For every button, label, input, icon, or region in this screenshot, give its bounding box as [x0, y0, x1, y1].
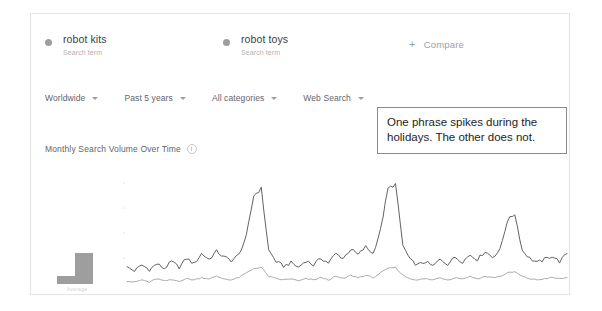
- chart-title: Monthly Search Volume Over Time: [45, 144, 181, 154]
- filter-time-range-label: Past 5 years: [124, 93, 172, 103]
- series-dot-icon: [45, 39, 52, 46]
- y-axis-ticks: [123, 182, 125, 259]
- chevron-down-icon: [92, 97, 98, 100]
- chevron-down-icon: [358, 97, 364, 100]
- filter-bar: Worldwide Past 5 years All categories We…: [45, 93, 390, 103]
- search-term-sublabel: Search term: [241, 47, 288, 58]
- filter-category-label: All categories: [212, 93, 264, 103]
- average-label: Average: [49, 286, 105, 292]
- search-term-name: robot kits: [63, 33, 107, 46]
- chevron-down-icon: [180, 97, 186, 100]
- line-series-robot-toys: [127, 267, 567, 282]
- search-terms-row: robot kits Search term robot toys Search…: [31, 33, 569, 73]
- search-term-robot-toys[interactable]: robot toys Search term: [223, 33, 288, 58]
- search-term-sublabel: Search term: [63, 47, 107, 58]
- filter-time-range[interactable]: Past 5 years: [124, 93, 185, 103]
- compare-label: Compare: [424, 39, 464, 50]
- filter-search-type[interactable]: Web Search: [303, 93, 364, 103]
- annotation-callout: One phrase spikes during the holidays. T…: [377, 107, 567, 154]
- plus-icon: +: [409, 39, 416, 50]
- add-compare-button[interactable]: + Compare: [409, 39, 464, 50]
- filter-category[interactable]: All categories: [212, 93, 277, 103]
- search-term-name: robot toys: [241, 33, 288, 46]
- chart-header: Monthly Search Volume Over Time: [45, 144, 197, 154]
- chart-plot: [31, 169, 570, 295]
- average-bar-icon: [49, 251, 105, 285]
- trends-chart: Average: [31, 169, 570, 295]
- line-series-robot-kits: [127, 183, 567, 271]
- info-icon[interactable]: [187, 144, 197, 154]
- chevron-down-icon: [271, 97, 277, 100]
- search-term-robot-kits[interactable]: robot kits Search term: [45, 33, 107, 58]
- filter-search-type-label: Web Search: [303, 93, 351, 103]
- filter-location[interactable]: Worldwide: [45, 93, 98, 103]
- trends-card: robot kits Search term robot toys Search…: [30, 13, 570, 295]
- filter-location-label: Worldwide: [45, 93, 85, 103]
- annotation-text: One phrase spikes during the holidays. T…: [387, 115, 557, 145]
- series-dot-icon: [223, 39, 230, 46]
- average-indicator: Average: [49, 251, 105, 295]
